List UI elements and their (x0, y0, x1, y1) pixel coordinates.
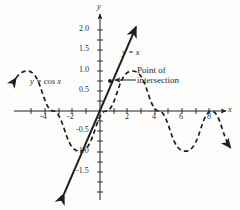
x-tick-label-4: 4 (152, 113, 156, 121)
x-tick-label-8: 8 (207, 113, 211, 121)
y-tick-label-1-5: 1.5 (79, 45, 89, 53)
y-tick-label-2-0: 2.0 (79, 25, 89, 33)
y-tick-label-neg-1-5: -1.5 (76, 167, 89, 175)
y-tick-label-neg-0-5: -0.5 (76, 126, 89, 134)
x-tick-label-2: 2 (125, 113, 129, 121)
x-axis-label: x (228, 105, 232, 114)
intersection-callout-line2: intersection (137, 76, 179, 85)
intersection-point-marker (108, 79, 112, 83)
identity-line-label: y = x (122, 48, 140, 57)
x-tick-label-6: 6 (179, 113, 183, 121)
x-tick-label-neg-4: -4 (40, 113, 47, 121)
y-axis-label: y (97, 2, 101, 11)
axis-group (14, 14, 226, 200)
graph-figure (0, 0, 240, 210)
y-tick-label-neg-1-0: -1.0 (76, 147, 89, 155)
y-tick-label-0-5: 0.5 (79, 86, 89, 94)
x-tick-label-neg-2: -2 (67, 113, 74, 121)
y-tick-label-1-0: 1.0 (79, 66, 89, 74)
cosine-curve-label: y = cos x (30, 77, 61, 86)
